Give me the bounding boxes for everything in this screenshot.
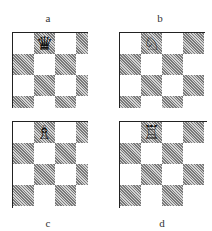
square [120,33,141,54]
square [141,96,162,108]
square: ♘ [141,33,162,54]
square [55,33,76,54]
square [55,75,76,96]
square [55,164,76,185]
chessboard-b: ♘ [119,32,205,108]
square: ♛ [34,33,55,54]
square [183,164,204,185]
square [34,75,55,96]
square [34,54,55,75]
square [34,164,55,185]
black-queen-icon: ♛ [36,34,53,53]
square [162,75,183,96]
square [183,96,204,108]
square [183,33,204,54]
square [55,122,76,143]
square [183,122,204,143]
square [13,75,34,96]
square [120,75,141,96]
chessboard-c: ♗ [12,121,88,208]
diagram-label-a: a [38,12,58,24]
square: ♖ [141,122,162,143]
square [141,185,162,206]
chessboard-a: ♛ [12,32,88,108]
square [120,143,141,164]
white-rook-icon: ♖ [143,123,160,142]
square [76,96,88,108]
square [76,143,88,164]
square [120,185,141,206]
square [13,54,34,75]
square [76,185,88,206]
square [55,96,76,108]
square [162,164,183,185]
square [76,54,88,75]
white-bishop-icon: ♗ [36,123,53,142]
square [120,122,141,143]
square [34,96,55,108]
square [13,96,34,108]
square [13,185,34,206]
square [183,54,204,75]
square [183,185,204,206]
square [162,54,183,75]
square [55,185,76,206]
chessboard-d: ♖ [119,121,207,208]
square [162,122,183,143]
square [141,164,162,185]
square [120,96,141,108]
square [141,54,162,75]
square [76,164,88,185]
square [183,75,204,96]
square [76,75,88,96]
square [120,54,141,75]
square [162,143,183,164]
square [55,143,76,164]
square [162,96,183,108]
square [13,33,34,54]
square: ♗ [34,122,55,143]
square [162,33,183,54]
square [76,122,88,143]
square [34,143,55,164]
square [141,143,162,164]
square [162,185,183,206]
square [55,54,76,75]
square [13,143,34,164]
diagram-label-b: b [150,12,170,24]
square [183,143,204,164]
square [76,33,88,54]
white-knight-icon: ♘ [143,34,160,53]
square [34,185,55,206]
diagram-label-c: c [38,217,58,229]
square [141,75,162,96]
square [120,164,141,185]
diagram-label-d: d [152,217,172,229]
square [13,164,34,185]
square [13,122,34,143]
